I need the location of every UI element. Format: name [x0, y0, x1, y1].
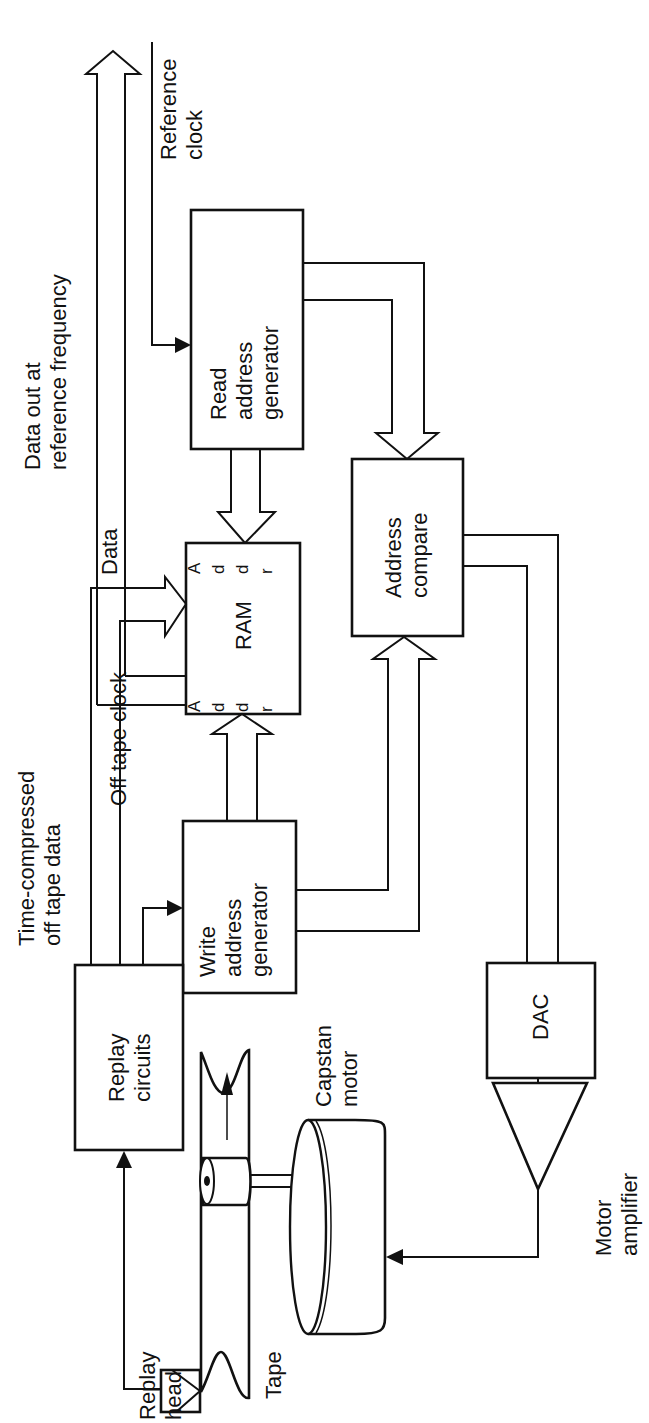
arrowhead-icon — [116, 1151, 132, 1168]
svg-text:Motor: Motor — [591, 1200, 616, 1256]
off-tape-clock-label: Off tape clock — [106, 671, 131, 806]
svg-text:Reference: Reference — [156, 58, 181, 160]
svg-text:head: head — [161, 1371, 186, 1420]
svg-text:Tape: Tape — [261, 1351, 286, 1399]
capstan-motor — [290, 1120, 385, 1334]
off-tape-clock-line — [143, 900, 183, 965]
svg-text:off tape data: off tape data — [40, 823, 65, 946]
svg-text:reference frequency: reference frequency — [46, 274, 71, 470]
svg-text:amplifier: amplifier — [617, 1173, 642, 1256]
data-label: Data — [97, 528, 122, 575]
svg-text:A: A — [185, 562, 204, 574]
svg-text:Replay: Replay — [135, 1352, 160, 1420]
svg-text:compare: compare — [407, 512, 432, 598]
read-address-bus-arrow — [218, 449, 275, 543]
svg-text:Data: Data — [97, 528, 122, 575]
svg-text:RAM: RAM — [231, 601, 256, 650]
read-address-to-compare-bus — [303, 263, 438, 459]
svg-text:address: address — [221, 899, 246, 977]
svg-text:DAC: DAC — [528, 993, 553, 1040]
svg-text:Replay: Replay — [104, 1034, 129, 1102]
address-compare-label: Address compare — [381, 512, 432, 598]
svg-text:circuits: circuits — [130, 1034, 155, 1102]
capstan-motor-label: Capstan motor — [311, 1025, 362, 1107]
tape — [201, 1050, 249, 1398]
svg-text:Capstan: Capstan — [311, 1025, 336, 1107]
svg-text:motor: motor — [337, 1051, 362, 1107]
replay-circuits-block — [75, 965, 183, 1150]
svg-text:Write: Write — [195, 926, 220, 977]
svg-text:d: d — [233, 703, 252, 712]
svg-text:address: address — [232, 342, 257, 420]
svg-text:Data out at: Data out at — [20, 362, 45, 470]
dac-label: DAC — [528, 993, 553, 1040]
replay-head-label: Replay head — [135, 1352, 186, 1420]
svg-text:Time-compressed: Time-compressed — [14, 771, 39, 946]
data-out-label: Data out at reference frequency — [20, 274, 71, 470]
arrowhead-icon — [167, 900, 183, 916]
svg-text:Off tape clock: Off tape clock — [106, 671, 131, 806]
motor-amplifier-label: Motor amplifier — [591, 1173, 642, 1256]
svg-text:A: A — [185, 700, 204, 712]
motor-amplifier — [493, 1083, 587, 1189]
compare-to-dac-bus — [463, 535, 558, 963]
time-compressed-label: Time-compressed off tape data — [14, 771, 65, 946]
arrowhead-icon — [175, 337, 191, 353]
svg-text:clock: clock — [182, 109, 207, 160]
svg-text:r: r — [257, 706, 276, 712]
reference-clock-label: Reference clock — [156, 58, 207, 160]
write-address-to-compare-bus — [296, 637, 435, 931]
svg-text:Read: Read — [206, 367, 231, 420]
replay-circuits-label: Replay circuits — [104, 1034, 155, 1102]
tape-replay-timebase-corrector-diagram: Reference clock Data out at reference fr… — [0, 0, 649, 1423]
svg-text:generator: generator — [258, 326, 283, 420]
svg-text:generator: generator — [247, 883, 272, 977]
svg-text:d: d — [209, 565, 228, 574]
ram-label: RAM — [231, 601, 256, 650]
arrowhead-icon — [386, 1249, 403, 1265]
tape-label: Tape — [261, 1351, 286, 1399]
svg-text:Address: Address — [381, 517, 406, 598]
write-address-bus-arrow — [212, 714, 272, 821]
amp-to-motor-line — [386, 1189, 538, 1265]
svg-text:r: r — [257, 568, 276, 574]
svg-text:d: d — [233, 565, 252, 574]
svg-text:d: d — [209, 703, 228, 712]
